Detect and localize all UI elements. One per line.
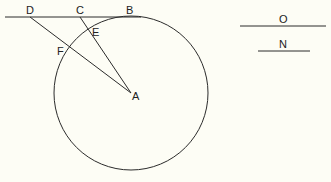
- label-b: B: [126, 4, 133, 16]
- label-o: O: [279, 13, 288, 25]
- geometry-diagram: D C B E F A O N: [0, 0, 331, 182]
- label-e: E: [92, 26, 99, 38]
- label-n: N: [279, 38, 287, 50]
- label-d: D: [26, 4, 34, 16]
- label-c: C: [76, 4, 84, 16]
- label-f: F: [57, 45, 64, 57]
- label-a: A: [132, 90, 140, 102]
- line-ca: [80, 17, 131, 93]
- line-da: [30, 17, 131, 93]
